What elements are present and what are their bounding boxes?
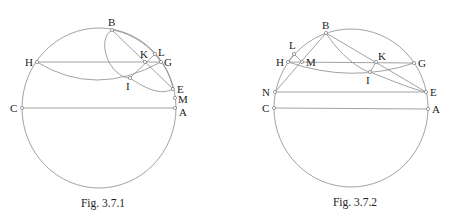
- point-marker-e: [424, 90, 427, 93]
- point-marker-e: [171, 87, 174, 90]
- arc-curve: [37, 62, 161, 80]
- point-marker-a: [426, 107, 429, 110]
- point-label-a: A: [432, 103, 440, 115]
- point-marker-n: [273, 90, 276, 93]
- point-marker-l: [153, 52, 156, 55]
- point-label-h: H: [25, 56, 33, 68]
- point-marker-c: [272, 106, 275, 109]
- point-marker-b: [110, 28, 113, 31]
- point-marker-m: [300, 60, 303, 63]
- point-label-n: N: [262, 86, 270, 98]
- point-marker-g: [159, 60, 162, 63]
- point-label-m: M: [178, 93, 188, 105]
- point-label-l: L: [289, 39, 296, 51]
- point-marker-l: [292, 52, 295, 55]
- point-label-m: M: [306, 56, 316, 68]
- point-label-i: I: [126, 80, 130, 92]
- point-marker-b: [324, 31, 327, 34]
- point-label-b: B: [322, 19, 329, 31]
- point-marker-m: [173, 96, 176, 99]
- point-label-e: E: [430, 86, 437, 98]
- segment-ca: [274, 108, 428, 109]
- figure-caption: Fig. 3.7.1: [81, 197, 125, 210]
- point-label-i: I: [366, 74, 370, 86]
- point-label-h: H: [276, 56, 284, 68]
- point-label-g: G: [418, 57, 426, 69]
- point-label-k: K: [378, 50, 386, 62]
- point-marker-c: [20, 106, 23, 109]
- point-marker-k: [143, 60, 146, 63]
- point-label-c: C: [262, 102, 269, 114]
- figure-3-7-1: BHKLGIEMACFig. 3.7.1: [10, 16, 188, 210]
- point-label-c: C: [10, 102, 17, 114]
- point-marker-h: [286, 60, 289, 63]
- point-marker-a: [173, 106, 176, 109]
- point-label-g: G: [164, 56, 172, 68]
- figure-caption: Fig. 3.7.2: [333, 196, 377, 209]
- point-label-a: A: [179, 106, 187, 118]
- point-label-k: K: [140, 48, 148, 60]
- geometry-figures: BHKLGIEMACFig. 3.7.1 BLHMKGINECAFig. 3.7…: [0, 0, 449, 217]
- point-label-b: B: [108, 16, 115, 28]
- point-marker-g: [412, 61, 415, 64]
- point-marker-h: [35, 60, 38, 63]
- figure-3-7-2: BLHMKGINECAFig. 3.7.2: [262, 19, 440, 209]
